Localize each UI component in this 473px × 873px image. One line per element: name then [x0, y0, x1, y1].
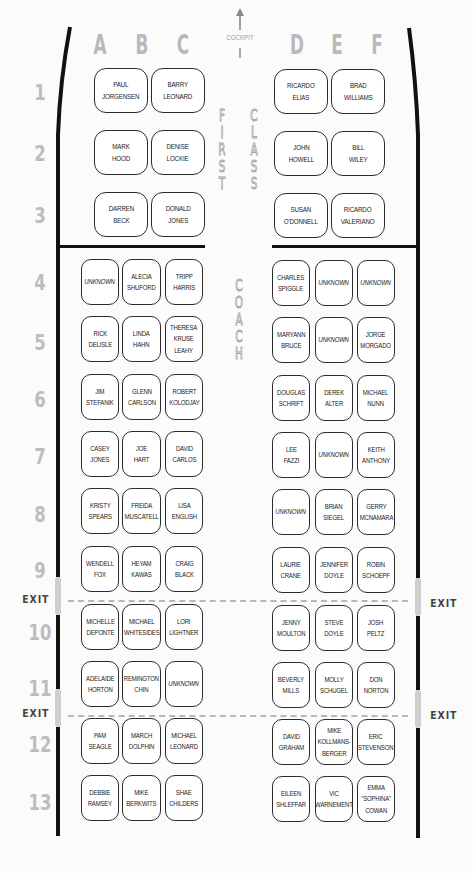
- seat-7c[interactable]: DAVID CARLOS: [165, 431, 203, 477]
- seat-10d[interactable]: JENNY MOULTON: [272, 605, 310, 651]
- passenger-name: DENISE LOCKIE: [167, 141, 189, 164]
- passenger-name: ADELAIDE HORTON: [86, 673, 114, 696]
- passenger-name: MICHAEL NUNN: [363, 387, 388, 410]
- seat-9b[interactable]: HEYAM KAWAS: [122, 546, 161, 592]
- seat-9a[interactable]: WENDELL FOX: [81, 546, 119, 592]
- seat-10f[interactable]: JOSH PELTZ: [357, 605, 395, 651]
- seat-7e[interactable]: UNKNOWN: [315, 432, 353, 478]
- exit-label-right: EXIT: [430, 709, 457, 722]
- seat-3c[interactable]: DONALD JONES: [151, 192, 205, 237]
- passenger-name: BEVERLY MILLS: [278, 674, 304, 697]
- seat-3d[interactable]: SUSAN O'DONNELL: [274, 193, 328, 238]
- passenger-name: UNKNOWN: [361, 277, 391, 289]
- section-divider-left: [58, 245, 205, 248]
- passenger-name: BILL WILEY: [349, 142, 368, 165]
- seat-12e[interactable]: MIKE KOLLMANS- BERGER: [315, 719, 353, 765]
- seat-11e[interactable]: MOLLY SCHUGEL: [315, 662, 353, 708]
- passenger-name: LEE FAZZI: [283, 444, 298, 467]
- passenger-name: JIM STEFANIK: [86, 386, 114, 409]
- seat-13c[interactable]: SHAE CHILDERS: [165, 775, 203, 821]
- seat-12c[interactable]: MICHAEL LEONARD: [165, 718, 203, 764]
- seat-6d[interactable]: DOUGLAS SCHRIFT: [272, 375, 310, 421]
- seat-4f[interactable]: UNKNOWN: [357, 260, 395, 306]
- seat-5c[interactable]: THERESA KRUSE LEAHY: [165, 316, 203, 362]
- seat-13e[interactable]: VIC WARNEMENT: [315, 776, 353, 822]
- seat-1a[interactable]: PAUL JORGENSEN: [94, 68, 148, 113]
- seat-13f[interactable]: EMMA "SOPHINA" COWAN: [357, 776, 395, 822]
- seat-8d[interactable]: UNKNOWN: [272, 489, 310, 535]
- seat-4c[interactable]: TRIPP HARRIS: [165, 259, 203, 305]
- seat-5a[interactable]: RICK DELISLE: [81, 316, 119, 362]
- seat-4a[interactable]: UNKNOWN: [81, 259, 119, 305]
- seat-5b[interactable]: LINDA HAHN: [122, 316, 161, 362]
- seat-9e[interactable]: JENNIFER DOYLE: [315, 547, 353, 593]
- seat-8e[interactable]: BRIAN SIEGEL: [315, 489, 353, 535]
- seat-4b[interactable]: ALECIA SHUFORD: [122, 259, 161, 305]
- passenger-name: UNKNOWN: [85, 276, 115, 288]
- seat-12d[interactable]: DAVID GRAHAM: [272, 719, 310, 765]
- seat-3f[interactable]: RICARDO VALERIANO: [331, 193, 385, 238]
- row-number: 8: [27, 502, 54, 527]
- seat-11f[interactable]: DON NORTON: [357, 662, 395, 708]
- label-letter: O: [233, 295, 244, 312]
- passenger-name: MIKE BERKWITS: [127, 787, 157, 810]
- seat-10b[interactable]: MICHAEL WHITESIDES: [122, 604, 161, 650]
- passenger-name: DAVID GRAHAM: [278, 731, 303, 754]
- seat-12a[interactable]: PAM SEAGLE: [81, 718, 119, 764]
- seat-11a[interactable]: ADELAIDE HORTON: [81, 661, 119, 707]
- seat-5e[interactable]: UNKNOWN: [315, 317, 353, 363]
- seat-12f[interactable]: ERIC STEVENSON: [357, 719, 395, 765]
- passenger-name: MICHAEL LEONARD: [170, 730, 198, 753]
- label-letter: F: [216, 108, 227, 125]
- passenger-name: LAURIE CRANE: [281, 559, 302, 582]
- seat-1d[interactable]: RICARDO ELIAS: [274, 69, 328, 114]
- seat-2a[interactable]: MARK HOOD: [94, 130, 148, 175]
- seat-7b[interactable]: JOE HART: [122, 431, 161, 477]
- seat-8b[interactable]: FREIDA MUSCATELL: [122, 488, 161, 534]
- seat-7a[interactable]: CASEY JONES: [81, 431, 119, 477]
- seat-11c[interactable]: UNKNOWN: [165, 661, 203, 707]
- seat-6c[interactable]: ROBERT KOLODJAY: [165, 374, 203, 420]
- seat-12b[interactable]: MARCH DOLPHIN: [122, 718, 161, 764]
- seat-7d[interactable]: LEE FAZZI: [272, 432, 310, 478]
- label-letter: I: [216, 125, 227, 142]
- seat-13d[interactable]: EILEEN SHLEFFAR: [272, 776, 310, 822]
- seat-9d[interactable]: LAURIE CRANE: [272, 547, 310, 593]
- seat-9c[interactable]: CRAIG BLACK: [165, 546, 203, 592]
- label-letter: L: [248, 125, 259, 142]
- seat-11d[interactable]: BEVERLY MILLS: [272, 662, 310, 708]
- passenger-name: ROBERT KOLODJAY: [169, 386, 199, 409]
- passenger-name: JOHN HOWELL: [288, 142, 313, 165]
- row-number: 4: [27, 270, 54, 295]
- seat-8a[interactable]: KRISTY SPEARS: [81, 488, 119, 534]
- seat-4e[interactable]: UNKNOWN: [315, 260, 353, 306]
- seat-5d[interactable]: MARYANN BRUCE: [272, 317, 310, 363]
- seat-6b[interactable]: GLENN CARLSON: [122, 374, 161, 420]
- seat-7f[interactable]: KEITH ANTHONY: [357, 432, 395, 478]
- row-number: 10: [27, 620, 54, 645]
- seat-10e[interactable]: STEVE DOYLE: [315, 605, 353, 651]
- passenger-name: MIKE KOLLMANS- BERGER: [317, 725, 350, 760]
- seat-8c[interactable]: LISA ENGLISH: [165, 488, 203, 534]
- seat-2d[interactable]: JOHN HOWELL: [274, 131, 328, 176]
- seat-8f[interactable]: GERRY MCNAMARA: [357, 489, 395, 535]
- seat-10c[interactable]: LORI LIGHTNER: [165, 604, 203, 650]
- seat-1f[interactable]: BRAD WILLIAMS: [331, 69, 385, 114]
- seat-13b[interactable]: MIKE BERKWITS: [122, 775, 161, 821]
- seat-6e[interactable]: DEREK ALTER: [315, 375, 353, 421]
- seat-11b[interactable]: REMINGTON CHIN: [122, 661, 161, 707]
- seat-6f[interactable]: MICHAEL NUNN: [357, 375, 395, 421]
- seat-3a[interactable]: DARREN BECK: [94, 192, 148, 237]
- seat-4d[interactable]: CHARLES SPIGGLE: [272, 260, 310, 306]
- seat-2c[interactable]: DENISE LOCKIE: [151, 130, 205, 175]
- seat-2f[interactable]: BILL WILEY: [331, 131, 385, 176]
- passenger-name: JOE HART: [134, 443, 150, 466]
- passenger-name: ERIC STEVENSON: [358, 731, 393, 754]
- seat-13a[interactable]: DEBBIE RAMSEY: [81, 775, 119, 821]
- seat-6a[interactable]: JIM STEFANIK: [81, 374, 119, 420]
- seat-5f[interactable]: JORGE MORGADO: [357, 317, 395, 363]
- row-number: 13: [27, 790, 54, 815]
- seat-9f[interactable]: ROBIN SCHOEPF: [357, 547, 395, 593]
- seat-10a[interactable]: MICHELLE DEPONTE: [81, 604, 119, 650]
- seat-1c[interactable]: BARRY LEONARD: [151, 68, 205, 113]
